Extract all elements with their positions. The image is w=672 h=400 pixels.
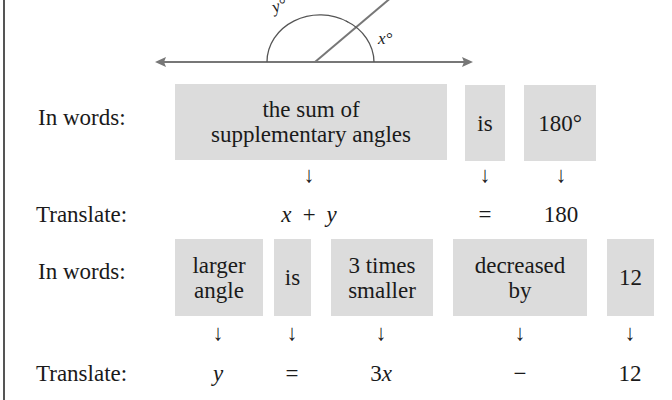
box-text-line1: 3 times xyxy=(348,253,416,278)
angle-arc-x xyxy=(346,21,374,62)
translate-label: Translate: xyxy=(36,203,127,226)
translation-12: 12 xyxy=(619,362,642,385)
phrase-box-is: is xyxy=(274,239,311,316)
in-words-label: In words: xyxy=(38,260,126,283)
in-words-label: In words: xyxy=(38,106,126,129)
box-text: is xyxy=(477,111,492,136)
translation-equals: = xyxy=(286,362,299,385)
down-arrow-icon: ↓ xyxy=(287,322,298,344)
phrase-box-3-times-smaller: 3 timessmaller xyxy=(331,239,433,316)
supplementary-angle-diagram xyxy=(0,0,672,80)
phrase-box-decreased-by: decreasedby xyxy=(453,239,587,316)
box-text: 180° xyxy=(538,111,582,136)
down-arrow-icon: ↓ xyxy=(304,164,315,186)
phrase-box-larger-angle: largerangle xyxy=(175,239,263,316)
box-text: is xyxy=(285,265,300,290)
translation-180: 180 xyxy=(544,203,579,226)
translate-label: Translate: xyxy=(36,362,127,385)
phrase-box-12: 12 xyxy=(607,239,654,316)
phrase-box-180-degrees: 180° xyxy=(524,85,596,161)
baseline-with-arrows xyxy=(155,57,473,67)
translation-3x: 3x xyxy=(370,362,392,385)
box-text-line1: larger xyxy=(192,253,245,278)
phrase-box-sum-of-supplementary-angles: the sum ofsupplementary angles xyxy=(175,84,447,160)
angle-arc-y xyxy=(267,15,348,62)
phrase-box-is: is xyxy=(465,85,505,161)
down-arrow-icon: ↓ xyxy=(625,322,636,344)
box-text-line2: by xyxy=(475,278,566,303)
down-arrow-icon: ↓ xyxy=(376,322,387,344)
down-arrow-icon: ↓ xyxy=(515,322,526,344)
box-text-line2: smaller xyxy=(348,278,416,303)
translation-y: y xyxy=(213,362,223,385)
box-text-line2: supplementary angles xyxy=(211,122,411,147)
down-arrow-icon: ↓ xyxy=(556,164,567,186)
down-arrow-icon: ↓ xyxy=(213,322,224,344)
box-text: 12 xyxy=(619,265,642,290)
down-arrow-icon: ↓ xyxy=(480,164,491,186)
translation-minus: − xyxy=(514,362,527,385)
translation-x-plus-y: x + y xyxy=(281,203,336,226)
translation-equals: = xyxy=(479,203,492,226)
angle-label-x: x° xyxy=(378,30,392,47)
box-text-line1: the sum of xyxy=(211,97,411,122)
translation-3x-text: 3x xyxy=(370,361,392,386)
box-text-line1: decreased xyxy=(475,253,566,278)
box-text-line2: angle xyxy=(192,278,245,303)
